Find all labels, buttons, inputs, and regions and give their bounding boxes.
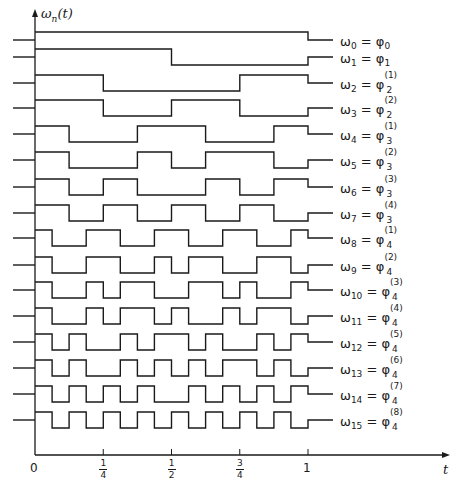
- walsh-waveform-7: [35, 205, 333, 221]
- walsh-waveform-12: [35, 334, 333, 350]
- walsh-waveform-1: [35, 49, 333, 65]
- walsh-waveform-8: [35, 230, 333, 246]
- waveforms: [13, 32, 333, 428]
- function-label-3: ω3 = φ(2)2: [340, 103, 398, 119]
- function-label-1: ω1 = φ1: [340, 52, 390, 68]
- walsh-waveform-14: [35, 386, 333, 402]
- function-label-11: ω11 = φ(4)4: [340, 311, 404, 327]
- x-ticks: [103, 449, 308, 455]
- walsh-waveform-0: [35, 32, 333, 40]
- walsh-waveform-13: [35, 360, 333, 376]
- walsh-waveform-2: [35, 75, 333, 91]
- function-label-4: ω4 = φ(1)3: [340, 129, 398, 145]
- function-label-0: ω0 = φ0: [340, 35, 390, 51]
- walsh-waveform-11: [35, 308, 333, 324]
- function-label-9: ω9 = φ(2)4: [340, 260, 398, 276]
- x-tick-fraction: 14: [97, 459, 109, 480]
- function-label-5: ω5 = φ(2)3: [340, 155, 398, 171]
- function-label-6: ω6 = φ(3)3: [340, 182, 398, 198]
- function-label-7: ω7 = φ(4)3: [340, 208, 398, 224]
- y-axis-title: ωn(t): [41, 6, 73, 24]
- x-axis-arrow-icon: [442, 452, 450, 458]
- function-label-2: ω2 = φ(1)2: [340, 78, 398, 94]
- function-label-8: ω8 = φ(1)4: [340, 233, 398, 249]
- function-label-13: ω13 = φ(6)4: [340, 363, 404, 379]
- x-axis-title: t: [443, 462, 448, 477]
- walsh-waveform-5: [35, 152, 333, 168]
- walsh-waveform-3: [35, 100, 333, 116]
- walsh-waveform-4: [35, 126, 333, 142]
- function-label-12: ω12 = φ(5)4: [340, 337, 404, 353]
- x-tick-fraction: 12: [166, 459, 178, 480]
- x-tick-fraction: 34: [234, 459, 246, 480]
- x-tick-label: 0: [30, 461, 38, 475]
- y-axis-arrow-icon: [32, 9, 38, 17]
- walsh-waveform-10: [35, 282, 333, 298]
- walsh-waveform-15: [35, 412, 333, 428]
- function-label-15: ω15 = φ(8)4: [340, 415, 404, 431]
- function-label-14: ω14 = φ(7)4: [340, 389, 404, 405]
- function-label-10: ω10 = φ(3)4: [340, 285, 404, 301]
- x-tick-label: 1: [303, 461, 311, 475]
- walsh-waveform-9: [35, 257, 333, 273]
- walsh-waveform-6: [35, 179, 333, 195]
